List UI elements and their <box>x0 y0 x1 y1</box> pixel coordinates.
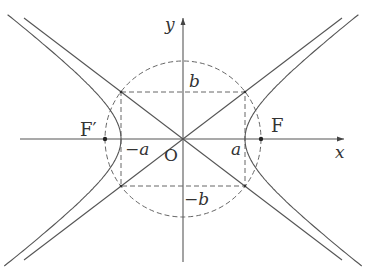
rect-corner-point <box>120 91 123 94</box>
label-b: b <box>189 71 200 91</box>
label-minus-b: −b <box>184 189 209 209</box>
rect-corner-point <box>244 91 247 94</box>
label-minus-a: −a <box>125 139 149 159</box>
focus-right-label: F <box>271 115 284 136</box>
focus-right-point <box>259 137 263 141</box>
rect-corner-point <box>244 185 247 188</box>
rect-corner-point <box>120 185 123 188</box>
y-axis-label: y <box>164 14 175 34</box>
focus-left-label: F′ <box>80 119 97 140</box>
x-axis-label: x <box>335 142 345 162</box>
focus-left-point <box>103 137 107 141</box>
hyperbola-diagram: y x O b −b a −a F F′ <box>0 0 366 278</box>
label-a: a <box>231 139 241 159</box>
origin-label: O <box>164 145 178 165</box>
